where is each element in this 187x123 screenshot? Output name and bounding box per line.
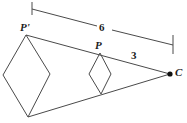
ray-lower-bottom-to-c xyxy=(28,74,170,117)
geometry-figure: P' P C 6 3 xyxy=(0,0,187,123)
measure-line-left-segment xyxy=(32,9,97,26)
label-length-six: 6 xyxy=(99,22,105,33)
label-length-three: 3 xyxy=(131,50,137,61)
small-rhombus xyxy=(89,53,111,94)
measure-line-right-segment xyxy=(112,30,173,45)
label-c: C xyxy=(175,67,182,78)
label-p: P xyxy=(95,40,102,51)
center-point-c-dot xyxy=(167,71,172,76)
label-p-prime: P' xyxy=(20,22,30,33)
large-rhombus xyxy=(3,35,50,117)
figure-canvas xyxy=(0,0,187,123)
